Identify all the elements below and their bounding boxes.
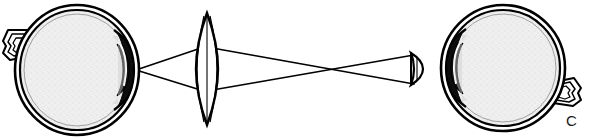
panel-label-c: C [566, 113, 577, 128]
patient-eye [441, 5, 581, 131]
condensing-lens [196, 13, 218, 125]
optical-ray-diagram [0, 0, 591, 139]
small-lens [411, 53, 423, 85]
observer-eye [3, 5, 139, 135]
sclera-inner-right [446, 10, 560, 126]
ray-upper-right [201, 46, 414, 84]
ray-lower-right [201, 55, 414, 92]
ray-bundle [136, 46, 414, 92]
figure-root: C [0, 0, 591, 139]
sclera-inner-left [20, 10, 134, 130]
